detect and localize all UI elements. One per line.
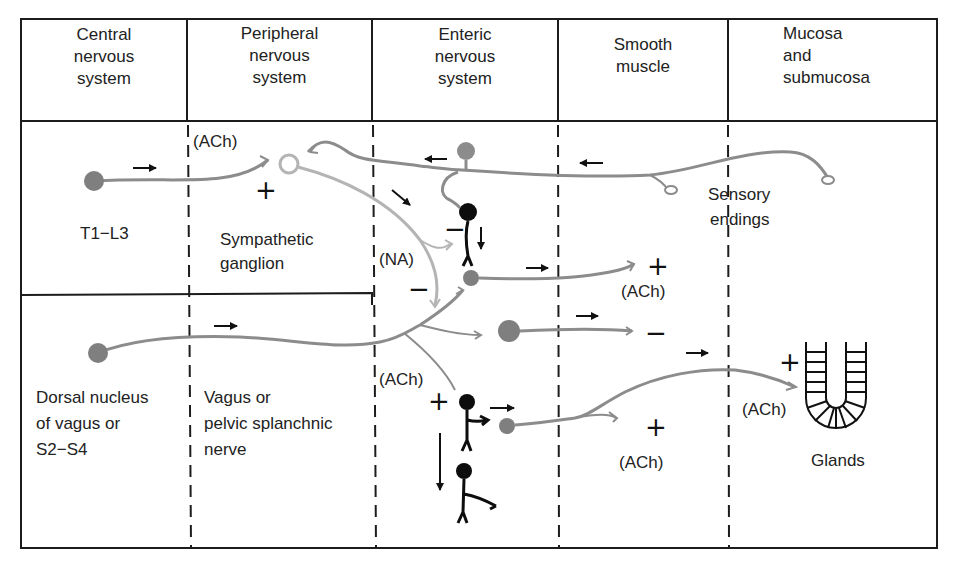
sympathetic-ganglion-label-1: Sympathetic	[220, 229, 314, 251]
header-cns-line: Central	[21, 24, 187, 46]
header-mucosa-line: submucosa	[783, 67, 933, 89]
enteric-motor-neuron-upper	[463, 261, 634, 286]
nt-vagal: (ACh)	[379, 370, 423, 390]
header-cns-line: nervous	[21, 46, 187, 68]
sympathetic-preganglionic-neuron	[84, 156, 268, 191]
enteric-nervous-system-diagram: Central nervous system Peripheral nervou…	[0, 0, 955, 571]
nt-enteric-muscle-upper: (ACh)	[621, 282, 665, 302]
header-cns-line: system	[21, 68, 187, 90]
sign-na-inhibit-interneuron: −	[444, 216, 466, 242]
header-cns: Central nervous system	[21, 24, 187, 90]
sympathetic-ganglion-label-2: ganglion	[220, 253, 284, 275]
sign-gland-excite: +	[779, 349, 801, 375]
sign-ganglion-excite: +	[255, 177, 277, 203]
enteric-interneuron-lower-1	[440, 394, 514, 490]
nt-preganglionic-sympathetic: (ACh)	[193, 132, 237, 152]
parasympathetic-origin-label-3: S2−S4	[36, 439, 88, 461]
parasympathetic-origin-label-1: Dorsal nucleus	[36, 387, 148, 409]
header-ens-line: Enteric	[372, 24, 558, 46]
header-ens-line: nervous	[372, 46, 558, 68]
header-smooth-muscle: Smooth muscle	[558, 34, 728, 78]
parasympathetic-origin-label-2: of vagus or	[36, 413, 120, 435]
sensory-endings-label-2: endings	[710, 209, 770, 231]
enteric-inhibitory-motor-neuron	[498, 316, 632, 342]
header-mucosa-line: and	[783, 45, 933, 67]
sign-muscle-excite-lower: +	[645, 414, 667, 440]
table-frame	[21, 19, 937, 548]
parasympathetic-nerve-label-3: nerve	[204, 439, 247, 461]
nt-postganglionic-sympathetic: (NA)	[379, 250, 414, 270]
sign-muscle-inhibit: −	[645, 320, 667, 346]
sympathetic-origin-label: T1−L3	[80, 223, 129, 245]
sign-muscle-excite-upper: +	[647, 253, 669, 279]
glands-label: Glands	[811, 450, 865, 472]
nt-enteric-muscle-lower: (ACh)	[619, 453, 663, 473]
sensory-endings-label-1: Sensory	[708, 184, 770, 206]
header-mucosa: Mucosa and submucosa	[783, 23, 933, 89]
header-ens: Enteric nervous system	[372, 24, 558, 90]
header-smooth-muscle-line: muscle	[558, 56, 728, 78]
parasympathetic-nerve-label-2: pelvic splanchnic	[204, 413, 333, 435]
sign-vagal-excite: +	[428, 388, 450, 414]
header-pns-line: Peripheral	[187, 23, 372, 45]
gland-icon	[806, 342, 866, 429]
header-pns: Peripheral nervous system	[187, 23, 372, 89]
header-pns-line: nervous	[187, 45, 372, 67]
header-ens-line: system	[372, 68, 558, 90]
header-mucosa-line: Mucosa	[783, 23, 933, 45]
nt-secretomotor: (ACh)	[742, 400, 786, 420]
sign-na-inhibit-lower: −	[408, 276, 430, 302]
header-pns-line: system	[187, 67, 372, 89]
enteric-interneuron-lower-2	[456, 463, 496, 523]
header-smooth-muscle-line: Smooth	[558, 34, 728, 56]
parasympathetic-nerve-label-1: Vagus or	[204, 387, 271, 409]
